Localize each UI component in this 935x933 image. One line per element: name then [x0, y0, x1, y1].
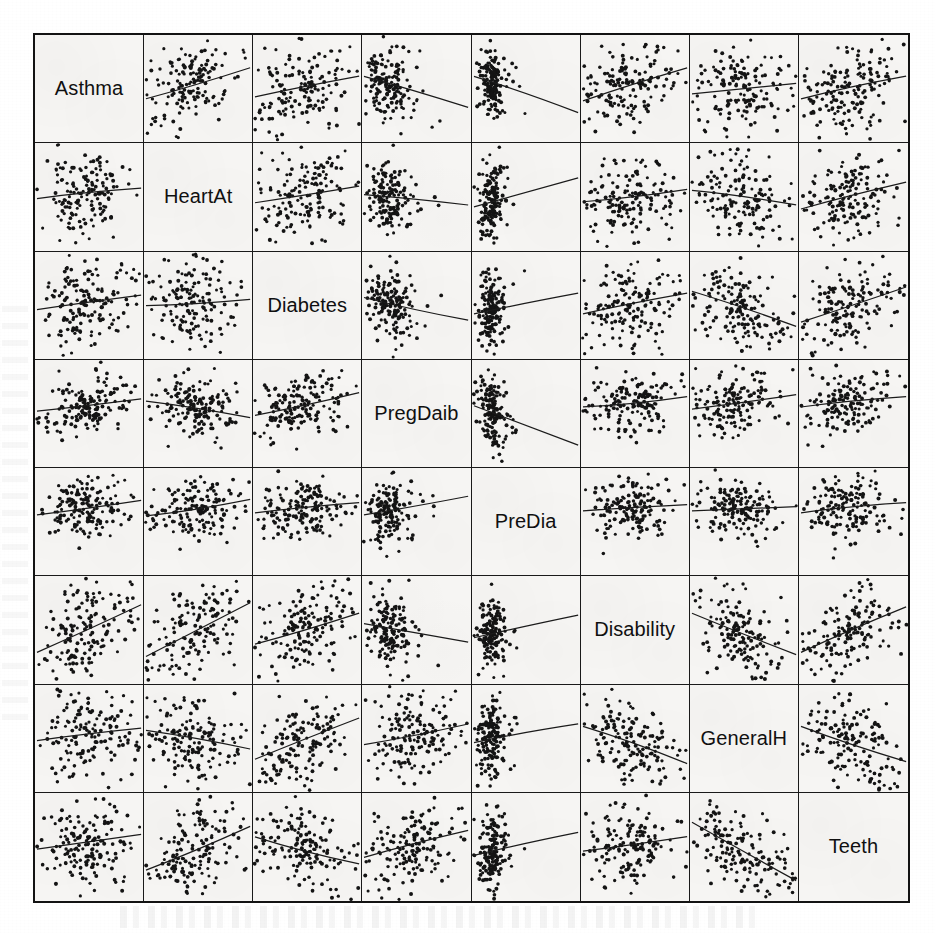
scatter-cell-heartat-vs-asthma: [144, 35, 253, 143]
scatter-cell-heartat-vs-diabetes: [144, 252, 253, 360]
data-points: [254, 37, 362, 142]
scatter-cell-teeth-vs-generalh: [799, 685, 908, 793]
scatter-plot: [799, 35, 908, 142]
scatter-plot: [690, 468, 798, 575]
data-points: [145, 580, 251, 682]
data-points: [145, 39, 247, 139]
data-points: [364, 796, 468, 901]
scatter-plot: [581, 252, 689, 359]
diagonal-cell-generalh: GeneralH: [690, 685, 799, 793]
data-points: [581, 366, 685, 445]
scatter-cell-diabetes-vs-predia: [253, 468, 362, 576]
scatter-cell-diabetes-vs-disability: [253, 576, 362, 684]
scatter-cell-diabetes-vs-pregdaib: [253, 360, 362, 468]
data-points: [253, 795, 360, 901]
scatter-plot: [144, 793, 252, 901]
scatter-plot: [253, 576, 361, 683]
scatter-plot: [362, 576, 470, 683]
scatter-plot: [581, 793, 689, 901]
scatter-cell-heartat-vs-teeth: [144, 793, 253, 901]
scatter-cell-predia-vs-heartat: [472, 143, 581, 251]
scatter-plot: [690, 793, 798, 901]
scatter-cell-generalh-vs-teeth: [690, 793, 799, 901]
scatter-plot: [581, 360, 689, 467]
scatter-plot: [144, 576, 252, 683]
data-points: [363, 144, 441, 237]
scatter-plot: [690, 35, 798, 142]
scatter-plot: [35, 793, 143, 901]
scatter-plot: [581, 35, 689, 142]
data-points: [472, 146, 515, 245]
data-points: [802, 38, 907, 141]
scatter-plot: [35, 143, 143, 250]
variable-label-asthma: Asthma: [35, 35, 143, 142]
scatter-cell-teeth-vs-predia: [799, 468, 908, 576]
data-points: [799, 363, 907, 448]
scatter-plot: [799, 360, 908, 467]
scatter-plot: [362, 468, 470, 575]
data-points: [40, 474, 135, 550]
scatter-plot: [472, 35, 580, 142]
data-points: [473, 267, 526, 356]
scatter-cell-pregdaib-vs-predia: [362, 468, 471, 576]
data-points: [472, 690, 518, 787]
data-points: [364, 35, 442, 135]
diagonal-cell-teeth: Teeth: [799, 793, 908, 901]
data-points: [690, 147, 793, 247]
scatter-cell-heartat-vs-predia: [144, 468, 253, 576]
data-points: [801, 692, 903, 792]
scatter-plot: [690, 360, 798, 467]
scatter-plot: [472, 793, 580, 901]
scatter-cell-teeth-vs-heartat: [799, 143, 908, 251]
diagonal-cell-pregdaib: PregDaib: [362, 360, 471, 468]
scatter-cell-disability-vs-teeth: [581, 793, 690, 901]
data-points: [472, 583, 518, 679]
scatter-cell-diabetes-vs-generalh: [253, 685, 362, 793]
regression-line: [801, 76, 906, 99]
data-points: [691, 577, 789, 681]
scatter-cell-predia-vs-disability: [472, 576, 581, 684]
data-points: [144, 475, 251, 551]
scatter-cell-generalh-vs-predia: [690, 468, 799, 576]
data-points: [582, 687, 687, 785]
scatter-cell-predia-vs-asthma: [472, 35, 581, 143]
scatter-cell-heartat-vs-generalh: [144, 685, 253, 793]
variable-label-teeth: Teeth: [799, 793, 908, 901]
scatter-plot: [253, 143, 361, 250]
scatter-plot: [144, 685, 252, 792]
regression-line: [146, 299, 250, 305]
scatter-cell-pregdaib-vs-disability: [362, 576, 471, 684]
scatterplot-matrix-grid: AsthmaHeartAtDiabetesPregDaibPreDiaDisab…: [33, 33, 910, 903]
scatter-cell-teeth-vs-asthma: [799, 35, 908, 143]
scatter-cell-heartat-vs-pregdaib: [144, 360, 253, 468]
data-points: [802, 470, 905, 560]
variable-label-diabetes: Diabetes: [253, 252, 361, 359]
data-points: [362, 470, 436, 557]
scatter-plot: [144, 360, 252, 467]
scatter-cell-generalh-vs-pregdaib: [690, 360, 799, 468]
scatter-plot: [581, 143, 689, 250]
regression-line: [364, 297, 468, 320]
scatter-cell-pregdaib-vs-diabetes: [362, 252, 471, 360]
data-points: [581, 258, 682, 355]
scatter-plot: [253, 793, 361, 901]
scatter-plot: [144, 35, 252, 142]
data-points: [253, 369, 358, 451]
scatter-plot: [35, 685, 143, 792]
scatter-cell-disability-vs-pregdaib: [581, 360, 690, 468]
scatter-plot: [472, 360, 580, 467]
scatter-cell-diabetes-vs-heartat: [253, 143, 362, 251]
data-points: [35, 143, 138, 244]
page-bleedthrough-bottom: [120, 906, 760, 928]
scatter-plot: [144, 468, 252, 575]
data-points: [582, 157, 686, 248]
scatter-cell-generalh-vs-diabetes: [690, 252, 799, 360]
scatter-plot: [253, 685, 361, 792]
data-points: [258, 694, 358, 791]
scatter-cell-asthma-vs-teeth: [35, 793, 144, 901]
data-points: [584, 472, 686, 555]
data-points: [472, 368, 518, 463]
variable-label-generalh: GeneralH: [690, 685, 798, 792]
scatter-plot: [253, 468, 361, 575]
scatter-plot: [253, 360, 361, 467]
